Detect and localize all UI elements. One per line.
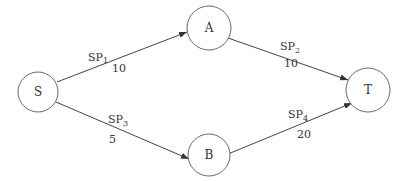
edge-s-b	[56, 102, 189, 159]
node-a: A	[187, 6, 231, 50]
edge-label-sp3: SP3	[108, 113, 128, 128]
edge-weight-sp4: 20	[297, 128, 311, 141]
node-label: B	[205, 148, 214, 162]
edge-weight-sp2: 10	[284, 57, 298, 70]
edge-label-sp4: SP4	[288, 108, 308, 123]
node-label: A	[204, 21, 214, 35]
edge-weight-sp3: 5	[109, 133, 116, 146]
node-s: S	[18, 72, 58, 112]
edge-label-sp1: SP1	[88, 51, 108, 65]
node-b: B	[188, 134, 230, 176]
node-label: T	[364, 83, 372, 97]
node-label: S	[34, 85, 42, 99]
node-t: T	[346, 68, 390, 112]
arrow-line	[56, 102, 189, 159]
network-diagram: SP1 10 SP2 10 SP3 5 SP4 20 S A B T	[0, 0, 400, 181]
edge-weight-sp1: 10	[112, 62, 126, 75]
diagram-svg: SP1 10 SP2 10 SP3 5 SP4 20 S A B T	[0, 0, 400, 181]
edge-label-sp2: SP2	[280, 40, 300, 55]
